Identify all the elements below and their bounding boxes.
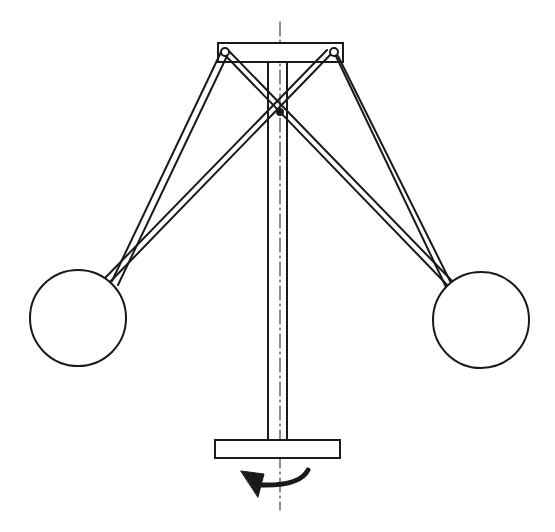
left-ball — [30, 270, 126, 366]
cross-pivot — [277, 109, 283, 115]
right-ball — [433, 272, 529, 368]
diagram-canvas: Centrifugal governor (flyball) schematic — [0, 0, 555, 532]
left-link — [222, 50, 455, 288]
left-pivot — [221, 48, 229, 56]
right-arm — [333, 50, 451, 287]
left-arm — [112, 50, 227, 285]
right-link — [105, 50, 333, 282]
rotation-arrow-icon — [241, 470, 308, 497]
right-pivot — [330, 48, 338, 56]
base-plate — [215, 440, 340, 458]
